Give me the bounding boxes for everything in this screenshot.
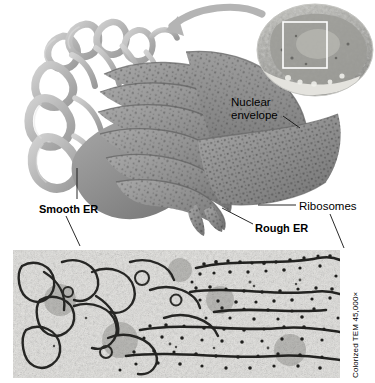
label-ribosomes: Ribosomes — [299, 200, 357, 213]
tem-micrograph — [13, 250, 340, 378]
label-rough-er: Rough ER — [255, 222, 308, 234]
label-nuclear-envelope: Nuclear envelope — [231, 96, 278, 122]
er-figure — [0, 0, 375, 383]
label-smooth-er: Smooth ER — [39, 203, 98, 215]
micrograph-credit: Colorized TEM 45,000× — [351, 250, 363, 378]
